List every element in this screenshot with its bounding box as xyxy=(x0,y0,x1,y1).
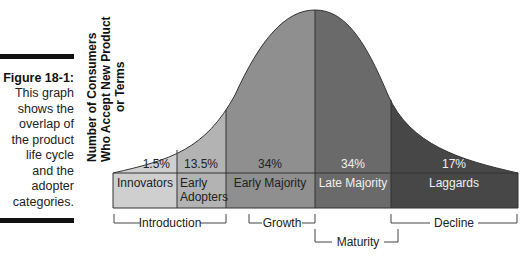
label-early-adopters-line2: Adopters xyxy=(180,190,228,204)
stage-introduction: Introduction xyxy=(139,216,202,230)
y-axis-label-line1: Number of Consumers xyxy=(85,32,99,162)
label-late-majority: Late Majority xyxy=(319,176,388,190)
percent-late-majority: 34% xyxy=(341,157,365,171)
label-innovators: Innovators xyxy=(117,176,173,190)
label-early-majority: Early Majority xyxy=(234,176,307,190)
stage-growth: Growth xyxy=(263,216,302,230)
stage-maturity: Maturity xyxy=(337,235,380,249)
adoption-curve-diagram: Number of Consumers Who Accept New Produ… xyxy=(0,0,525,268)
y-axis-label-line3: or Terms xyxy=(113,61,127,112)
label-early-adopters-line1: Early xyxy=(180,176,207,190)
percent-early-majority: 34% xyxy=(258,157,282,171)
y-axis-label-line2: Who Accept New Product xyxy=(99,16,113,162)
stage-decline: Decline xyxy=(434,216,474,230)
y-axis-label: Number of Consumers Who Accept New Produ… xyxy=(85,16,127,162)
percent-laggards: 17% xyxy=(442,157,466,171)
percent-early-adopters: 13.5% xyxy=(184,157,218,171)
percent-innovators: 1.5% xyxy=(143,157,171,171)
label-laggards: Laggards xyxy=(429,176,479,190)
